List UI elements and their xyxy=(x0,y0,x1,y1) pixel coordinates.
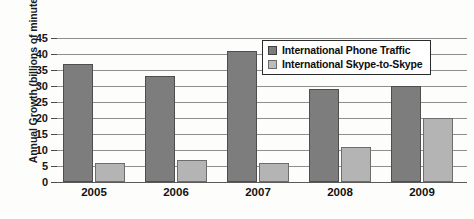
x-axis-label: 2007 xyxy=(245,186,271,198)
x-axis-label: 2009 xyxy=(409,186,435,198)
y-tick-mark xyxy=(51,134,57,135)
y-tick-mark xyxy=(51,150,57,151)
gridline xyxy=(57,182,467,183)
legend: International Phone Traffic Internationa… xyxy=(262,40,431,75)
y-tick-mark xyxy=(51,86,57,87)
y-tick-label: 30 xyxy=(36,80,48,92)
y-tick-mark xyxy=(51,54,57,55)
bar-2007-skype xyxy=(259,163,289,182)
bar-2005-phone xyxy=(63,64,93,182)
y-tick-mark xyxy=(51,118,57,119)
bar-2007-phone xyxy=(227,51,257,182)
gridline xyxy=(57,38,467,39)
legend-swatch-icon-phone xyxy=(268,46,277,55)
legend-item-skype: International Skype-to-Skype xyxy=(268,58,423,70)
y-tick-label: 15 xyxy=(36,128,48,140)
bar-2008-phone xyxy=(309,89,339,182)
y-tick-label: 0 xyxy=(42,176,48,188)
y-tick-label: 25 xyxy=(36,96,48,108)
y-tick-mark xyxy=(51,166,57,167)
y-tick-label: 10 xyxy=(36,144,48,156)
y-tick-label: 5 xyxy=(42,160,48,172)
legend-swatch-icon-skype xyxy=(268,60,277,69)
legend-label-skype: International Skype-to-Skype xyxy=(282,58,423,70)
y-tick-mark xyxy=(51,70,57,71)
x-axis-label: 2005 xyxy=(81,186,107,198)
y-tick-mark xyxy=(51,182,57,183)
legend-item-phone: International Phone Traffic xyxy=(268,44,423,56)
x-axis-label: 2006 xyxy=(163,186,189,198)
bar-2009-skype xyxy=(423,118,453,182)
y-tick-label: 40 xyxy=(36,48,48,60)
bar-2009-phone xyxy=(391,86,421,182)
y-tick-label: 45 xyxy=(36,32,48,44)
bar-2006-phone xyxy=(145,76,175,182)
y-tick-mark xyxy=(51,102,57,103)
bar-2008-skype xyxy=(341,147,371,182)
y-tick-mark xyxy=(51,38,57,39)
bar-2006-skype xyxy=(177,160,207,182)
bar-2005-skype xyxy=(95,163,125,182)
y-tick-label: 35 xyxy=(36,64,48,76)
bar-chart: Annual Growth (billions of minutes) 0510… xyxy=(0,0,474,219)
x-axis-label: 2008 xyxy=(327,186,353,198)
y-tick-label: 20 xyxy=(36,112,48,124)
legend-label-phone: International Phone Traffic xyxy=(282,44,410,56)
